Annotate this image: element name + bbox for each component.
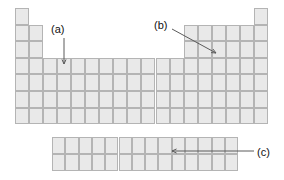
element-cell [43, 91, 57, 108]
element-cell [15, 74, 29, 91]
element-cell [226, 58, 240, 75]
element-cell [85, 74, 99, 91]
element-cell [198, 25, 212, 42]
f-block-cell [119, 154, 132, 171]
element-cell [254, 74, 268, 91]
element-cell [99, 108, 113, 125]
element-cell [99, 91, 113, 108]
f-block-cell [145, 137, 158, 154]
f-block-cell [198, 137, 211, 154]
f-block-cell [65, 154, 78, 171]
element-cell [226, 25, 240, 42]
element-cell [198, 74, 212, 91]
f-block-cell [145, 154, 158, 171]
element-cell [141, 108, 155, 125]
element-cell [99, 74, 113, 91]
element-cell [212, 25, 226, 42]
element-cell [170, 74, 184, 91]
element-cell [156, 91, 170, 108]
element-cell [15, 8, 29, 25]
f-block-cell [158, 137, 171, 154]
element-cell [141, 58, 155, 75]
element-cell [254, 91, 268, 108]
f-block-cell [172, 137, 185, 154]
element-cell [85, 108, 99, 125]
f-block-cell [185, 154, 198, 171]
f-block-cell [65, 137, 78, 154]
element-cell [198, 91, 212, 108]
element-cell [113, 91, 127, 108]
element-cell [29, 91, 43, 108]
element-cell [212, 91, 226, 108]
element-cell [113, 58, 127, 75]
element-cell [198, 108, 212, 125]
element-cell [71, 74, 85, 91]
element-cell [240, 58, 254, 75]
f-block-cell [185, 137, 198, 154]
element-cell [127, 91, 141, 108]
element-cell [254, 41, 268, 58]
element-cell [184, 41, 198, 58]
f-block-cell [212, 137, 225, 154]
f-block-cell [172, 154, 185, 171]
element-cell [198, 58, 212, 75]
element-cell [156, 108, 170, 125]
element-cell [156, 74, 170, 91]
element-cell [43, 108, 57, 125]
element-cell [184, 74, 198, 91]
element-cell [226, 41, 240, 58]
element-cell [240, 91, 254, 108]
element-cell [71, 108, 85, 125]
element-cell [212, 58, 226, 75]
f-block-cell [132, 154, 145, 171]
element-cell [71, 58, 85, 75]
element-cell [57, 108, 71, 125]
f-block-cell [198, 154, 211, 171]
annotation-label-a: (a) [51, 24, 64, 35]
element-cell [15, 41, 29, 58]
element-cell [170, 91, 184, 108]
element-cell [57, 58, 71, 75]
element-cell [240, 74, 254, 91]
element-cell [184, 108, 198, 125]
element-cell [212, 74, 226, 91]
element-cell [141, 91, 155, 108]
element-cell [127, 58, 141, 75]
element-cell [85, 58, 99, 75]
element-cell [29, 41, 43, 58]
element-cell [127, 108, 141, 125]
element-cell [226, 108, 240, 125]
f-block-cell [132, 137, 145, 154]
f-block-cell [212, 154, 225, 171]
element-cell [184, 58, 198, 75]
element-cell [212, 41, 226, 58]
element-cell [127, 74, 141, 91]
element-cell [57, 91, 71, 108]
f-block-cell [225, 137, 238, 154]
element-cell [240, 108, 254, 125]
element-cell [141, 74, 155, 91]
f-block-cell [119, 137, 132, 154]
annotation-label-c: (c) [257, 147, 270, 158]
element-cell [240, 25, 254, 42]
element-cell [15, 58, 29, 75]
element-cell [254, 8, 268, 25]
element-cell [113, 108, 127, 125]
element-cell [170, 58, 184, 75]
element-cell [198, 41, 212, 58]
f-block-cell [158, 154, 171, 171]
element-cell [29, 74, 43, 91]
f-block-cell [79, 154, 92, 171]
f-block-cell [105, 154, 118, 171]
f-block-cell [92, 137, 105, 154]
periodic-table-figure: (a)(b)(c) [0, 0, 284, 180]
element-cell [254, 25, 268, 42]
element-cell [240, 41, 254, 58]
f-block-cell [52, 154, 65, 171]
f-block-cell [52, 137, 65, 154]
element-cell [43, 58, 57, 75]
element-cell [15, 91, 29, 108]
element-cell [184, 25, 198, 42]
element-cell [226, 91, 240, 108]
f-block-cell [79, 137, 92, 154]
